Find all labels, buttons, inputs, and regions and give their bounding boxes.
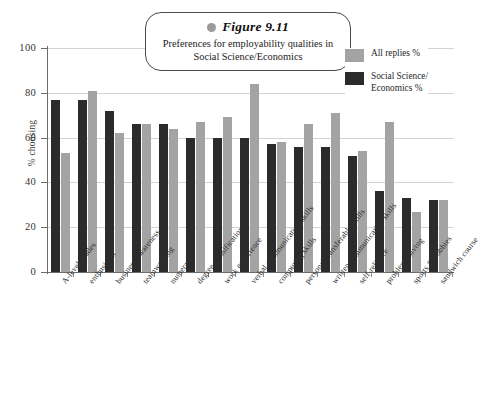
caption-heading: Figure 9.11 [154, 19, 342, 35]
y-axis-tick-label: 80 [6, 87, 36, 98]
legend-item-social-science: Social Science/ Economics % [345, 71, 428, 94]
y-axis-tick [41, 272, 48, 273]
legend-swatch-light-icon [345, 49, 364, 62]
bar-social-science [186, 138, 195, 272]
figure-number: Figure 9.11 [222, 19, 289, 35]
bar-all-replies [196, 122, 205, 272]
y-axis-tick [41, 182, 48, 183]
legend-label: Social Science/ Economics % [371, 71, 428, 94]
y-axis-tick-label: 100 [6, 42, 36, 53]
bar-social-science [105, 111, 114, 272]
y-axis-tick [41, 93, 48, 94]
y-axis-tick [41, 48, 48, 49]
y-axis-tick-label: 0 [6, 266, 36, 277]
bar-all-replies [61, 153, 70, 272]
chart-legend: All replies % Social Science/ Economics … [345, 48, 428, 103]
bullet-dot-icon [207, 23, 216, 32]
bar-all-replies [115, 133, 124, 272]
y-axis-title: % choosing [27, 103, 37, 183]
y-axis-tick [41, 227, 48, 228]
y-axis-tick-label: 20 [6, 221, 36, 232]
bar-social-science [51, 100, 60, 272]
y-axis-tick [41, 138, 48, 139]
legend-label: All replies % [371, 48, 420, 60]
figure-caption-text: Preferences for employability qualities … [154, 37, 342, 63]
legend-swatch-dark-icon [345, 72, 364, 85]
legend-item-all-replies: All replies % [345, 48, 428, 62]
figure-caption-box: Figure 9.11 Preferences for employabilit… [145, 12, 351, 71]
